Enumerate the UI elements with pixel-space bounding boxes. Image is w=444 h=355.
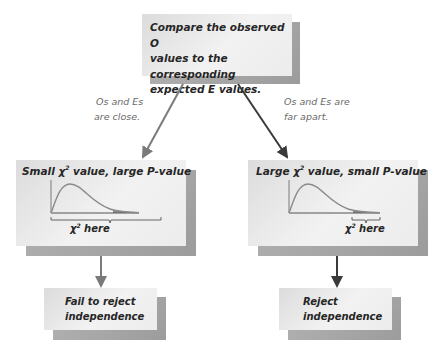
right-chi-here-label: χ2 here [345,223,385,234]
branch-label-close: Os and Es are close. [94,94,143,124]
large-chi-square-title: Large χ2 value, small P-value [256,165,427,177]
left-chi-square-curve [50,180,150,220]
compare-step-text: Compare the observed O values to the cor… [150,20,292,98]
reject-text: Reject independence [303,294,382,324]
compare-step-box: Compare the observed O values to the cor… [142,14,292,76]
reject-box: Reject independence [279,288,392,330]
fail-to-reject-text: Fail to reject independence [65,294,144,324]
right-chi-square-curve [288,180,388,220]
fail-to-reject-box: Fail to reject independence [44,288,157,330]
small-chi-square-title: Small χ2 value, large P-value [22,165,191,177]
branch-label-far-apart: Os and Es are far apart. [284,94,350,124]
left-chi-here-label: χ2 here [70,223,110,234]
